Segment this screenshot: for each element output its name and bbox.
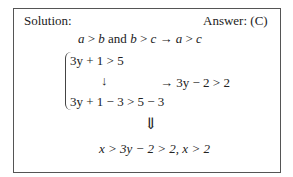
- result-equation: → 3y − 2 > 2: [160, 76, 230, 90]
- solution-label: Solution:: [24, 14, 72, 28]
- down-arrow-icon: ↓: [101, 74, 108, 88]
- equation-2: 3y + 1 − 3 > 5 − 3: [70, 95, 164, 109]
- implies-arrow-icon: ⇓: [144, 117, 157, 131]
- equation-1: 3y + 1 > 5: [70, 54, 124, 68]
- answer-label: Answer: (C): [203, 14, 268, 28]
- conclusion: x > 3y − 2 > 2, x > 2: [99, 142, 210, 156]
- transitivity-rule: a > b and b > c → a > c: [78, 32, 202, 46]
